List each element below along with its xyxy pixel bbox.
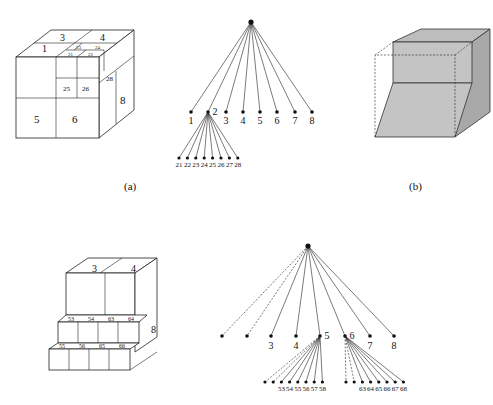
tree-leaf-label: 28 [234,161,242,169]
tree-leaf-label: 65 [375,385,383,393]
label-22: 22 [88,52,94,57]
tree-leaf [394,380,397,383]
tree-leaf [203,156,206,159]
caption-a: (a) [124,180,137,193]
tree-leaf-label: 22 [184,161,192,169]
tree-node [293,110,297,114]
tree-node-label: 3 [224,115,229,126]
tree-leaf [194,156,197,159]
tree-root [305,243,310,248]
label-56: 56 [79,343,85,349]
tree-leaf-label: 56 [303,385,311,393]
tree-node-label: 4 [241,115,246,126]
caption-b: (b) [409,180,422,193]
label-64: 64 [128,316,134,322]
label-23: 23 [76,45,82,50]
tree-node [294,334,298,338]
label-c3: 3 [92,263,97,274]
tree-leaf-label: 23 [192,161,200,169]
tree-node-label: 3 [269,340,274,351]
label-1: 1 [42,43,47,54]
tree-leaf [177,156,180,159]
tree-node [392,334,396,338]
tree-node [269,334,273,338]
tree-node-label: 2 [213,106,218,117]
tree-node-label: 4 [294,340,299,351]
octree-tree-c: 345678535455565758636465666768 [220,243,407,393]
tree-leaf [313,380,316,383]
label-6: 6 [72,113,78,125]
tree-node [275,110,279,114]
tree-leaf-label: 68 [400,385,408,393]
label-c8: 8 [151,324,156,335]
label-53: 53 [68,316,74,322]
tree-leaf-label: 25 [209,161,217,169]
label-8: 8 [120,94,126,106]
octree-cube-c: 3 4 8 53 54 63 64 55 56 65 66 [49,258,157,370]
octree-cube-a: 1 3 4 23 24 21 22 25 26 28 5 6 8 [16,30,134,138]
label-25: 25 [63,85,71,93]
tree-leaf [353,380,356,383]
tree-leaf [377,380,380,383]
label-65: 65 [99,343,105,349]
tree-leaf [296,380,299,383]
tree-node-label: 7 [293,115,298,126]
tree-leaf [344,380,347,383]
tree-leaf-label: 63 [359,385,367,393]
tree-leaf [369,380,372,383]
tree-leaf-label: 64 [367,385,375,393]
tree-leaf-label: 54 [286,385,294,393]
tree-node [189,110,193,114]
tree-node-label: 7 [368,340,373,351]
tree-node [224,110,228,114]
label-c4: 4 [131,263,136,274]
label-24: 24 [95,45,101,50]
label-26: 26 [82,85,90,93]
tree-node-label: 6 [350,330,355,341]
label-5: 5 [34,113,40,125]
tree-leaf [186,156,189,159]
tree-leaf-label: 66 [384,385,392,393]
tree-node [310,110,314,114]
tree-node [245,334,249,338]
tree-leaf [402,380,405,383]
tree-node [220,334,224,338]
tree-leaf-label: 57 [311,385,319,393]
tree-leaf-label: 53 [278,385,286,393]
label-21: 21 [68,52,74,57]
tree-node-label: 1 [189,115,194,126]
tree-node [241,110,245,114]
tree-node [368,334,372,338]
tree-leaf [211,156,214,159]
tree-leaf [280,380,283,383]
tree-leaf-label: 67 [392,385,400,393]
cube-b [375,29,490,137]
tree-leaf [321,380,324,383]
label-55: 55 [59,343,65,349]
tree-leaf-label: 24 [201,161,209,169]
tree-node-label: 6 [275,115,280,126]
tree-leaf [263,380,266,383]
tree-leaf-label: 27 [226,161,234,169]
tree-node-label: 5 [325,330,330,341]
tree-leaf [272,380,275,383]
tree-leaf-label: 55 [294,385,302,393]
tree-leaf [228,156,231,159]
tree-leaf [361,380,364,383]
octree-figure: 1 3 4 23 24 21 22 25 26 28 5 6 8 1234567… [0,0,493,405]
tree-node [258,110,262,114]
octree-tree-a: 123456782122232425262728 [176,19,315,169]
label-54: 54 [88,316,94,322]
tree-leaf-label: 26 [218,161,226,169]
tree-leaf [236,156,239,159]
label-4: 4 [100,32,105,43]
label-28: 28 [106,75,114,83]
tree-node-label: 8 [310,115,315,126]
tree-leaf [304,380,307,383]
tree-node-label: 8 [392,340,397,351]
tree-node-label: 5 [258,115,263,126]
tree-root [248,19,253,24]
label-66: 66 [119,343,125,349]
label-3: 3 [60,32,65,43]
tree-leaf [385,380,388,383]
